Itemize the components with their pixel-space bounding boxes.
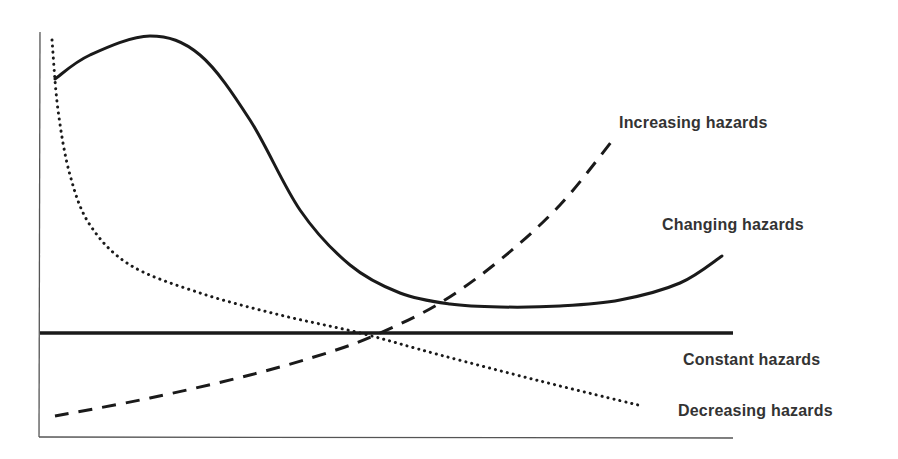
label-increasing-hazards: Increasing hazards (619, 114, 768, 132)
label-decreasing-hazards: Decreasing hazards (678, 402, 833, 420)
changing-hazards-line (55, 36, 722, 307)
x-axis (39, 437, 733, 438)
label-changing-hazards: Changing hazards (662, 216, 804, 234)
decreasing-hazards-line (52, 40, 638, 405)
y-axis (39, 32, 40, 437)
increasing-hazards-line (55, 141, 612, 416)
label-constant-hazards: Constant hazards (683, 351, 820, 369)
